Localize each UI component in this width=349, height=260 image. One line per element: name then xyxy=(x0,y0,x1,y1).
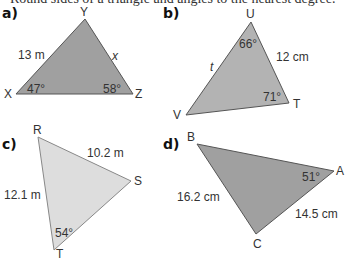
vertex-label-c: C xyxy=(253,238,262,250)
side-label-ut: 12 cm xyxy=(276,51,309,63)
angle-label-u: 66° xyxy=(239,38,257,50)
side-label-ac: 14.5 cm xyxy=(295,208,338,220)
side-label-rt: 12.1 m xyxy=(4,189,41,201)
vertex-label-v: V xyxy=(173,109,181,121)
vertex-label-t-b: T xyxy=(293,98,300,110)
vertex-label-b: B xyxy=(187,131,195,143)
vertex-label-a: A xyxy=(336,165,344,177)
angle-label-x: 47° xyxy=(27,83,45,95)
part-label-c: c) xyxy=(2,136,17,152)
side-label-xy: 13 m xyxy=(18,49,45,61)
vertex-label-t-c: T xyxy=(56,248,63,260)
angle-label-t-c: 54° xyxy=(55,227,73,239)
vertex-label-x: X xyxy=(4,88,12,100)
angle-label-z: 58° xyxy=(103,83,121,95)
side-label-bc: 16.2 cm xyxy=(177,191,220,203)
vertex-label-u: U xyxy=(246,8,255,20)
angle-label-t-b: 71° xyxy=(263,91,281,103)
vertex-label-y: Y xyxy=(80,6,88,18)
vertex-label-s: S xyxy=(134,175,142,187)
part-label-b: b) xyxy=(163,5,179,21)
vertex-label-z: Z xyxy=(135,88,142,100)
vertex-label-r: R xyxy=(33,124,42,136)
side-label-t: t xyxy=(210,61,213,73)
side-label-x: x xyxy=(112,50,118,62)
angle-label-a: 51° xyxy=(302,171,320,183)
part-label-d: d) xyxy=(163,136,179,152)
part-label-a: a) xyxy=(2,5,18,21)
side-label-rs: 10.2 m xyxy=(87,147,124,159)
